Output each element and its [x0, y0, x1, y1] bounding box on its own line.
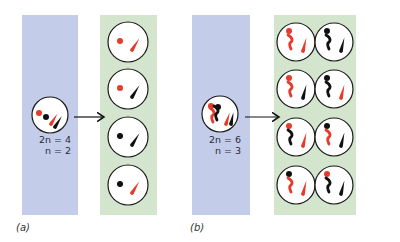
diploid-count-a: 2n = 4: [27, 134, 71, 145]
chromosome-dot: [117, 38, 123, 44]
gamete-cell-b: [277, 118, 315, 156]
panel-label-a: (a): [16, 222, 30, 233]
chromosome-dot: [286, 171, 292, 177]
chromosome-dot: [117, 85, 123, 91]
chromosome-dot: [117, 181, 123, 187]
gamete-cell-b: [315, 166, 353, 204]
chromosome-dot: [286, 75, 292, 81]
chromosome-dot: [286, 123, 292, 129]
chromosome-dot: [324, 75, 330, 81]
gamete-cell-b: [277, 23, 315, 61]
chromosome-dot: [286, 28, 292, 34]
panel-a: [22, 15, 157, 215]
chromosome-dot: [117, 133, 123, 139]
haploid-count-b: n = 3: [197, 145, 241, 156]
chromosome-dot: [324, 28, 330, 34]
gamete-cell-b: [315, 70, 353, 108]
chromosome-dot: [324, 171, 330, 177]
parent-cell-a: [32, 97, 68, 133]
diploid-count-b: 2n = 6: [197, 134, 241, 145]
parent-cell-b: [202, 96, 238, 132]
chromosome-dot: [43, 114, 49, 120]
diploid-cell-b: [202, 96, 238, 132]
gamete-cell-b: [315, 118, 353, 156]
gamete-cell-a: [108, 165, 148, 205]
gamete-cell-a: [108, 69, 148, 109]
panel-label-b: (b): [190, 222, 204, 233]
haploid-count-a: n = 2: [27, 145, 71, 156]
gamete-cell-b: [277, 70, 315, 108]
panel-b: [192, 15, 356, 215]
meiosis-diagram: [0, 0, 400, 242]
gamete-cell-a: [108, 117, 148, 157]
chromosome-dot: [324, 123, 330, 129]
gamete-cell-b: [277, 166, 315, 204]
diploid-cell-a: [32, 97, 68, 133]
chromosome-dot: [36, 110, 42, 116]
gamete-cell-b: [315, 23, 353, 61]
gamete-cell-a: [108, 22, 148, 62]
